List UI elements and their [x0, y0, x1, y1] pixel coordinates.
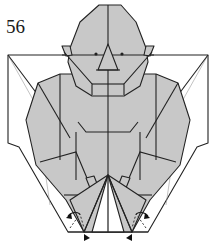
push-arrow-left: [84, 234, 90, 241]
push-arrow-right: [126, 234, 132, 241]
right-eye: [120, 52, 123, 55]
left-eye: [94, 52, 97, 55]
origami-diagram: [0, 0, 216, 245]
